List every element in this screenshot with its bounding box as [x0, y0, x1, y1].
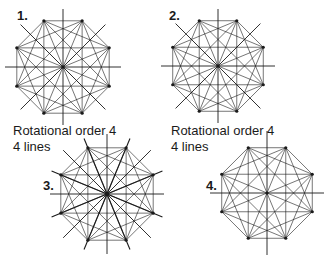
figure-2-lines: 4 lines	[171, 139, 274, 155]
figure-1-number: 1.	[17, 8, 28, 23]
figure-2-number: 2.	[169, 8, 180, 23]
figure-2-caption: Rotational order 4 4 lines	[171, 123, 274, 155]
figure-3-number: 3.	[43, 178, 54, 193]
figure-2-rotational-order: Rotational order 4	[171, 123, 274, 139]
figure-1-caption: Rotational order 4 4 lines	[13, 123, 116, 155]
figure-1-lines: 4 lines	[13, 139, 116, 155]
figure-1-rotational-order: Rotational order 4	[13, 123, 116, 139]
octagon-figure-1	[5, 9, 121, 125]
figure-4-number: 4.	[206, 178, 217, 193]
octagon-figure-2	[161, 9, 275, 123]
